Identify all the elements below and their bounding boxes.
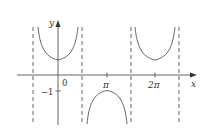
neg-one-label: −1: [41, 87, 54, 97]
x-axis-label: x: [191, 79, 196, 89]
asymptotes: [33, 27, 179, 125]
x-axis: [17, 73, 197, 78]
secant-graph: y x 0 −1 π 2π: [0, 0, 205, 133]
origin-label: 0: [62, 78, 67, 88]
branch-two-pi: [135, 27, 175, 60]
two-pi-label: 2π: [147, 80, 161, 90]
y-axis-arrow-icon: [56, 20, 61, 27]
pi-label: π: [102, 80, 110, 90]
y-axis-label: y: [48, 18, 55, 28]
y-axis: [56, 20, 61, 125]
branch-pi: [87, 91, 127, 125]
curves: [38, 27, 175, 124]
x-axis-arrow-icon: [190, 73, 197, 78]
